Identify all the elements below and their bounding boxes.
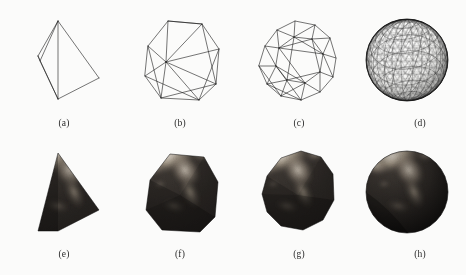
caption-e: (e) [44, 250, 84, 260]
panel-f-textured-subdivided-1 [130, 140, 235, 245]
polygon-f-texture [130, 140, 235, 245]
caption-a: (a) [44, 119, 84, 129]
sphere-mesh [352, 8, 460, 113]
subdivided-level-2-edges [259, 21, 336, 100]
caption-g: (g) [279, 250, 319, 260]
subdivided-level-1-edges [145, 21, 219, 100]
panel-d-wireframe-sphere-dense [352, 8, 460, 113]
tetrahedron-edges [38, 21, 99, 99]
caption-c: (c) [279, 119, 319, 129]
caption-b: (b) [160, 119, 200, 129]
panel-b-wireframe-subdivided-1 [130, 8, 235, 113]
sphere-h-texture [352, 140, 460, 245]
panel-c-wireframe-subdivided-2 [243, 8, 351, 113]
panel-e-textured-tetrahedron [14, 140, 114, 245]
figure-sphere-tessellation: (a) [0, 0, 466, 275]
panel-a-wireframe-tetrahedron [14, 8, 114, 113]
polygon-g-texture [243, 140, 351, 245]
caption-d: (d) [400, 119, 440, 129]
caption-f: (f) [160, 250, 200, 260]
panel-g-textured-subdivided-2 [243, 140, 351, 245]
panel-h-textured-sphere [352, 140, 460, 245]
tetrahedron-texture [14, 140, 114, 245]
caption-h: (h) [400, 250, 440, 260]
